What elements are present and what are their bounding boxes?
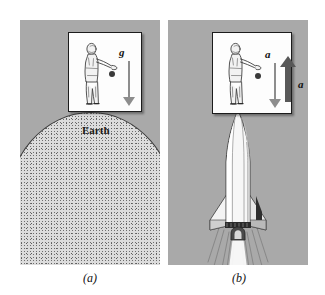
rocket xyxy=(202,108,274,265)
physics-equivalence-principle-figure: Earth xyxy=(0,0,325,295)
arrow-shaft xyxy=(274,63,276,100)
person-figure xyxy=(77,41,123,107)
caption-a: (a) xyxy=(83,271,97,286)
acceleration-arrow-inside-label: a xyxy=(265,48,271,60)
earth-label: Earth xyxy=(82,124,110,136)
acceleration-arrow-outside-label: a xyxy=(298,78,304,90)
arrow-shaft xyxy=(128,61,130,98)
caption-b: (b) xyxy=(232,271,246,286)
gravity-arrow-label: g xyxy=(119,46,125,58)
falling-ball xyxy=(255,73,261,79)
panel-a: Earth xyxy=(20,20,160,265)
arrow-shaft xyxy=(285,65,291,102)
arrow-head xyxy=(123,97,135,106)
elevator-box-a: g xyxy=(68,32,142,112)
falling-ball xyxy=(109,71,115,77)
gravity-arrow xyxy=(121,61,137,107)
acceleration-arrow-outside xyxy=(280,56,296,102)
panel-b: a a xyxy=(168,20,308,265)
